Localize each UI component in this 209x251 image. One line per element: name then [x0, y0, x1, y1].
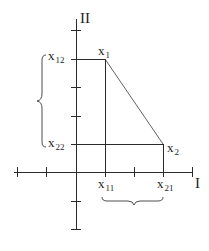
- segment-x1-x2: [105, 59, 163, 144]
- point-label-x1: x1: [98, 43, 110, 60]
- tick-label-x22: x22: [48, 135, 65, 152]
- vertical-brace: [37, 55, 46, 147]
- tick-label-x12: x12: [48, 48, 65, 65]
- axis-label-ii: II: [80, 10, 90, 26]
- point-label-x2: x2: [167, 140, 179, 157]
- tick-label-x11: x11: [98, 176, 114, 193]
- projection-lines: [76, 59, 163, 172]
- tick-label-x21: x21: [157, 176, 174, 193]
- coordinate-diagram: II I x1 x2 x12 x22 x11 x21: [0, 0, 209, 251]
- horizontal-brace: [102, 197, 163, 205]
- axis-label-i: I: [195, 175, 200, 191]
